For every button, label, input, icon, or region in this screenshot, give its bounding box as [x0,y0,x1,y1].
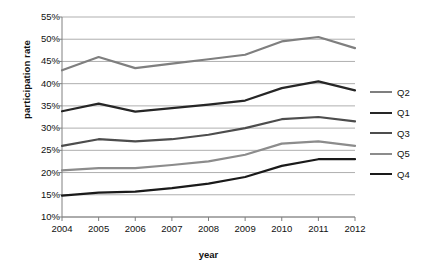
legend-item-q3[interactable]: Q3 [370,123,430,144]
legend-item-q4[interactable]: Q4 [370,164,430,185]
x-axis-tick-label: 2006 [115,224,155,234]
series-line-q1 [62,81,355,111]
legend-label: Q4 [397,170,410,180]
y-axis-tick-label: 20% [24,168,60,178]
legend-swatch-q4 [370,173,392,175]
y-axis-tick-label: 45% [24,56,60,66]
legend-label: Q3 [397,129,410,139]
y-axis-tick-label: 30% [24,123,60,133]
x-axis-title: year [62,249,355,260]
series-line-q5 [62,141,355,170]
y-axis-tick-label: 50% [24,34,60,44]
legend-item-q2[interactable]: Q2 [370,82,430,103]
legend-swatch-q3 [370,132,392,134]
series-line-q2 [62,37,355,70]
legend-item-q5[interactable]: Q5 [370,144,430,165]
y-axis-tick-label: 10% [24,212,60,222]
x-axis-tick-label: 2008 [189,224,229,234]
plot-area [62,17,355,217]
y-axis-tick-label: 25% [24,145,60,155]
y-axis-tick-label: 15% [24,190,60,200]
y-axis-tick-label: 40% [24,79,60,89]
series-line-q4 [62,159,355,195]
legend-label: Q2 [397,88,410,98]
x-axis-tick-label: 2012 [335,224,375,234]
x-axis-tick-labels: 200420052006200720082009201020112012 [62,224,355,240]
legend-swatch-q5 [370,153,392,155]
x-axis-tick-label: 2004 [42,224,82,234]
participation-rate-line-chart: participation rate 55%50%45%40%35%30%25%… [0,0,433,273]
x-axis-tick-label: 2009 [225,224,265,234]
legend-swatch-q1 [370,112,392,114]
legend-item-q1[interactable]: Q1 [370,103,430,124]
y-axis-tick-label: 35% [24,101,60,111]
legend-label: Q5 [397,149,410,159]
x-axis-tick-label: 2010 [262,224,302,234]
x-axis-tick-label: 2007 [152,224,192,234]
x-axis-tick-label: 2005 [79,224,119,234]
legend-swatch-q2 [370,91,392,93]
chart-legend: Q2Q1Q3Q5Q4 [370,82,430,185]
plot-svg [62,17,355,217]
x-axis-tick-label: 2011 [298,224,338,234]
y-axis-tick-label: 55% [24,12,60,22]
legend-label: Q1 [397,108,410,118]
